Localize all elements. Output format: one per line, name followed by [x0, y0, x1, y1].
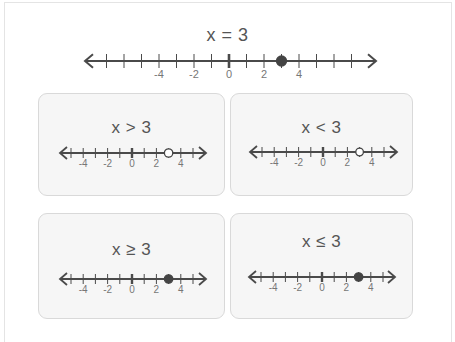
tick-label: 4: [178, 158, 184, 169]
tick-label: -4: [79, 284, 88, 295]
number-line: -4-2024: [60, 273, 206, 295]
tick-label: -2: [294, 157, 303, 168]
tick-label: 0: [129, 284, 135, 295]
open-point: [356, 148, 364, 156]
tick-label: -2: [103, 284, 112, 295]
tick-label: 0: [320, 157, 326, 168]
tick-label: -2: [103, 158, 112, 169]
tick-label: -4: [79, 158, 88, 169]
open-point: [164, 149, 172, 157]
tick-label: 0: [129, 158, 135, 169]
tick-label: 2: [345, 157, 351, 168]
card-number-lines: -4-2024-4-2024-4-2024-4-2024: [0, 0, 455, 342]
tick-label: 2: [344, 282, 350, 293]
tick-label: 4: [368, 282, 374, 293]
number-line: -4-2024: [249, 271, 395, 293]
tick-label: -2: [293, 282, 302, 293]
closed-point: [354, 273, 362, 281]
closed-point: [164, 275, 172, 283]
number-line: -4-2024: [60, 147, 206, 169]
number-line: -4-2024: [250, 146, 397, 168]
tick-label: -4: [269, 282, 278, 293]
tick-label: 4: [178, 284, 184, 295]
tick-label: 2: [154, 284, 160, 295]
tick-label: 0: [319, 282, 325, 293]
tick-label: 2: [154, 158, 160, 169]
tick-label: -4: [270, 157, 279, 168]
tick-label: 4: [369, 157, 375, 168]
